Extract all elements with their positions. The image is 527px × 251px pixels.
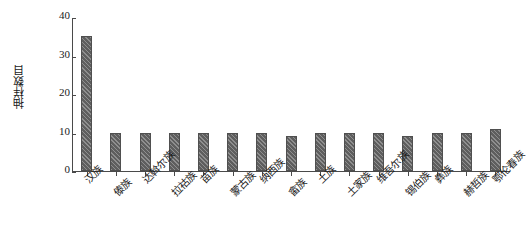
- bar: [227, 133, 238, 172]
- bar: [490, 129, 501, 171]
- x-tick-label: 畲族: [287, 177, 309, 199]
- bar: [286, 136, 297, 171]
- plot-area: 010203040: [72, 18, 510, 172]
- bar: [110, 133, 121, 172]
- x-tick-mark: [291, 172, 292, 176]
- y-tick-mark: [72, 172, 76, 173]
- x-tick-mark: [233, 172, 234, 176]
- bar: [256, 133, 267, 172]
- y-tick-label: 40: [40, 10, 70, 21]
- y-tick-label: 30: [40, 49, 70, 60]
- bar: [432, 133, 443, 172]
- y-tick-label: 10: [40, 126, 70, 137]
- bar: [198, 133, 209, 172]
- x-tick-mark: [174, 172, 175, 176]
- bar: [81, 36, 92, 171]
- bar: [140, 133, 151, 172]
- bar: [344, 133, 355, 172]
- x-tick-mark: [408, 172, 409, 176]
- y-tick-30: 30: [38, 57, 78, 58]
- y-tick-mark: [72, 134, 76, 135]
- y-tick-20: 20: [38, 95, 78, 96]
- bar: [373, 133, 384, 172]
- y-axis-label: 抽样数目: [10, 12, 28, 162]
- y-tick-0: 0: [38, 172, 78, 173]
- y-tick-10: 10: [38, 134, 78, 135]
- x-tick-mark: [466, 172, 467, 176]
- bar: [315, 133, 326, 172]
- y-tick-mark: [72, 18, 76, 19]
- y-tick-label: 20: [40, 87, 70, 98]
- y-tick-mark: [72, 95, 76, 96]
- x-tick-mark: [349, 172, 350, 176]
- x-tick-label: 傣族: [112, 177, 134, 199]
- y-tick-label: 0: [40, 164, 70, 175]
- x-tick-mark: [116, 172, 117, 176]
- y-tick-mark: [72, 57, 76, 58]
- y-tick-40: 40: [38, 18, 78, 19]
- bar: [461, 133, 472, 172]
